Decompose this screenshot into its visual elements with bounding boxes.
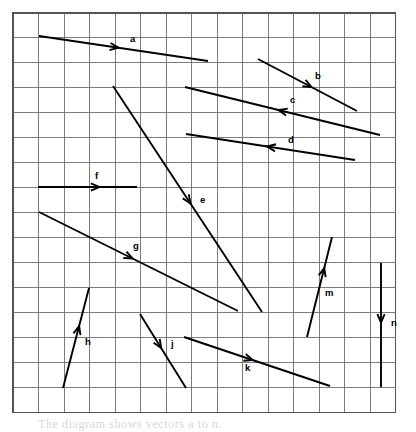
vector-k[interactable]: k — [184, 337, 330, 386]
vector-b[interactable]: b — [258, 59, 357, 111]
vector-label-f: f — [95, 170, 99, 181]
vector-label-m: m — [325, 287, 333, 298]
vector-label-n: n — [391, 317, 397, 328]
vector-label-d: d — [288, 134, 294, 145]
vector-e[interactable]: e — [113, 86, 262, 312]
vector-label-j: j — [170, 338, 174, 349]
grid-layer — [13, 13, 396, 412]
vector-g[interactable]: g — [39, 212, 238, 311]
vector-shaft-e — [113, 86, 262, 312]
vector-j[interactable]: j — [140, 314, 186, 388]
vector-label-b: b — [315, 70, 321, 81]
vector-shaft-b — [258, 59, 357, 111]
vector-shaft-g — [39, 212, 238, 311]
vector-label-k: k — [245, 362, 251, 373]
vector-shaft-j — [140, 314, 186, 388]
vector-f[interactable]: f — [38, 170, 137, 191]
vector-layer: abcdefghjkmn — [38, 33, 397, 388]
vector-n[interactable]: n — [377, 263, 397, 387]
vector-label-g: g — [133, 240, 139, 251]
vector-label-h: h — [85, 336, 91, 347]
vector-c[interactable]: c — [185, 87, 380, 135]
vector-h[interactable]: h — [63, 288, 91, 388]
vector-shaft-k — [184, 337, 330, 386]
vector-shaft-c — [185, 87, 380, 135]
vector-label-e: e — [200, 194, 205, 205]
figure-caption: The diagram shows vectors a to n. — [38, 417, 222, 432]
vector-label-c: c — [290, 94, 295, 105]
vector-label-a: a — [130, 33, 136, 44]
